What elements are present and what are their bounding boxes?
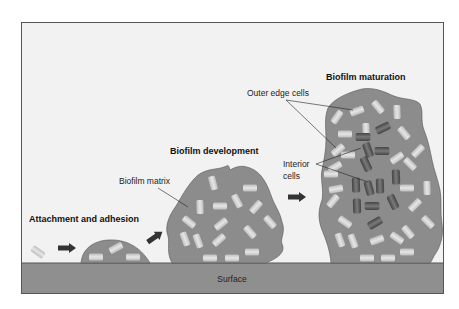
surface-label: Surface <box>217 274 247 284</box>
interior-cells-label-line2: cells <box>283 171 300 181</box>
stage-maturation-label: Biofilm maturation <box>326 72 406 82</box>
biofilm-diagram: Surface Attachment and adhesion Biofilm … <box>0 0 459 309</box>
stage-attachment-label: Attachment and adhesion <box>29 214 139 224</box>
stage-development-label: Biofilm development <box>170 146 259 156</box>
biofilm-matrix-label: Biofilm matrix <box>119 176 171 186</box>
interior-cells-label-line1: Interior <box>283 159 310 169</box>
outer-edge-cells-label: Outer edge cells <box>247 88 309 98</box>
